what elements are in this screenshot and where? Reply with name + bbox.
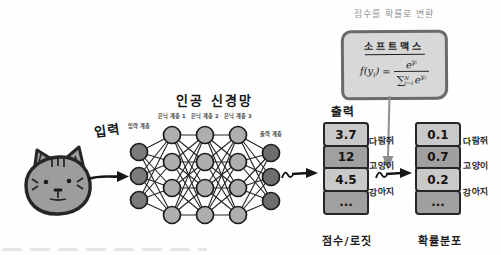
network-node-layer1 [164,180,181,197]
network-node-layer4 [263,193,280,210]
network-node-layer0 [131,192,148,209]
score-class-label: 강아지 [369,184,395,199]
score-cell: 4.5 [323,167,369,192]
scan-artifact-line [2,248,207,251]
probabilities-column: 0.1 0.7 0.2 ... [415,122,461,215]
network-node-layer1 [164,154,181,171]
network-layer-label: 은닉 계층 3 [224,112,252,120]
network-node-layer2 [197,207,214,224]
network-node-layer2 [197,154,214,171]
softmax-caption: 점수를 확률로 변환 [336,7,452,20]
diagram-canvas: 입력 인공 신경망 입력 계층은닉 계층 1은닉 계층 2은닉 계층 3출력 계… [0,0,501,255]
network-title: 인공 신경망 [176,90,253,109]
network-node-layer0 [131,144,148,161]
network-layer-label: 입력 계층 [128,122,150,130]
softmax-title: 소프트맥스 [364,38,424,55]
network-node-layer3 [230,154,247,171]
arrow-network-to-scores [281,164,319,184]
network-node-layer4 [263,145,280,162]
score-cell: ... [323,190,369,215]
network-layer-label: 은닉 계층 1 [158,112,186,120]
network-node-layer3 [230,207,247,224]
softmax-formula: f(yi) = eyᵢ ∑Nj=1 eyⱼ [360,58,429,86]
network-layer-label: 은닉 계층 2 [191,112,219,120]
probability-class-label: 고양이 [463,159,489,173]
network-node-layer3 [230,180,247,197]
probability-cell: 0.2 [415,167,461,192]
scores-caption: 점수/로짓 [317,232,377,248]
probability-cell: 0.1 [415,122,461,147]
output-label: 출력 [331,102,356,120]
network-node-layer4 [263,169,280,186]
score-cell: 12 [323,145,369,170]
network-node-layer1 [164,207,181,224]
cat-eye-left [44,180,49,185]
network-node-layer0 [131,168,148,185]
network-node-layer1 [164,127,181,144]
cat-eye-right [67,179,72,184]
probability-cell: 0.7 [415,145,461,170]
network-node-layer3 [230,127,247,144]
score-class-label: 다람쥐 [369,133,395,147]
network-node-layer2 [197,127,214,144]
network-layer-label: 출력 계층 [260,130,282,138]
score-cell: 3.7 [323,122,369,147]
cat-mouth [50,199,66,200]
arrow-scores-to-probabilities [375,164,413,184]
probabilities-caption: 확률분포 [410,232,470,248]
input-label: 입력 [93,118,121,140]
probability-class-label: 강아지 [463,184,489,199]
scores-column: 3.7 12 4.5 ... [323,122,369,215]
softmax-box: 소프트맥스 f(yi) = eyᵢ ∑Nj=1 eyⱼ [341,30,448,101]
probability-class-label: 다람쥐 [463,133,489,147]
probability-cell: ... [415,190,461,215]
network-node-layer2 [197,180,214,197]
